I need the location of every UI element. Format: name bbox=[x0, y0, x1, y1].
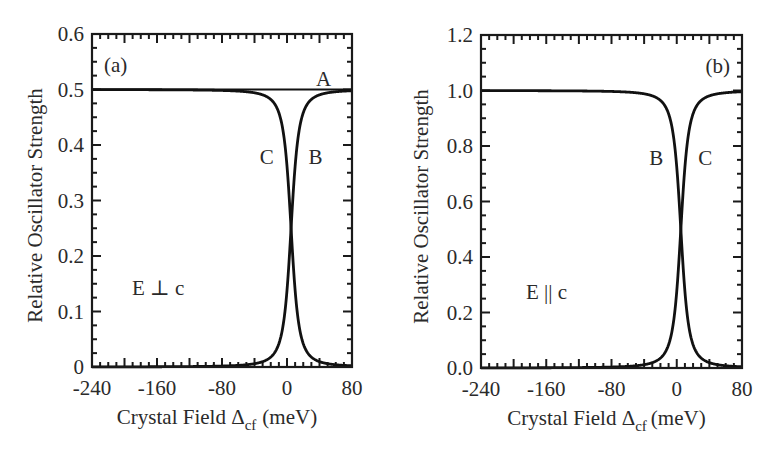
curve-label-B: B bbox=[649, 146, 663, 170]
panel-a-x-axis-title: Crystal Field Δcf(meV) bbox=[117, 405, 317, 433]
y-tick-label: 0.4 bbox=[58, 133, 85, 157]
curve-label-C: C bbox=[260, 145, 274, 169]
y-tick-label: 0.1 bbox=[58, 300, 84, 324]
x-tick-label: 80 bbox=[342, 376, 363, 400]
x-tick-label: 0 bbox=[672, 377, 683, 401]
panel-b-polarization-annotation: E || c bbox=[526, 280, 567, 304]
x-tick-label: -240 bbox=[462, 377, 501, 401]
y-tick-label: 0.2 bbox=[447, 301, 473, 325]
panel-b-curves bbox=[481, 91, 742, 368]
x-tick-label: -80 bbox=[208, 376, 236, 400]
panel-a-label: (a) bbox=[104, 53, 127, 77]
y-tick-label: 0.8 bbox=[447, 134, 473, 158]
y-tick-label: 1.2 bbox=[447, 23, 473, 47]
panel-a-x-tick-labels: -240-160-80080 bbox=[73, 376, 363, 400]
x-tick-label: 0 bbox=[282, 376, 293, 400]
curve-label-C: C bbox=[698, 146, 712, 170]
y-tick-label: 0.4 bbox=[447, 245, 474, 269]
curve-label-A: A bbox=[316, 67, 332, 91]
panel-a-perpendicular: 00.10.20.30.40.50.6 -240-160-80080 ACB (… bbox=[23, 22, 363, 433]
x-tick-label: 80 bbox=[732, 377, 753, 401]
curve-B bbox=[481, 91, 742, 367]
x-tick-label: -160 bbox=[138, 376, 177, 400]
curve-C bbox=[92, 91, 352, 367]
panel-b-x-tick-labels: -240-160-80080 bbox=[462, 377, 753, 401]
panel-a-frame bbox=[92, 34, 352, 367]
x-tick-label: -240 bbox=[73, 376, 112, 400]
panel-b-y-tick-labels: 0.00.20.40.60.81.01.2 bbox=[447, 23, 474, 380]
panel-b-x-axis-title: Crystal Field Δcf(meV) bbox=[507, 406, 705, 434]
panel-b-y-axis-title: Relative Oscillator Strength bbox=[409, 89, 433, 324]
y-tick-label: 0.2 bbox=[58, 244, 84, 268]
curve-B bbox=[92, 90, 352, 366]
y-tick-label: 0.6 bbox=[447, 190, 473, 214]
curve-C bbox=[481, 92, 742, 368]
panel-a-polarization-annotation: E ⊥ c bbox=[132, 276, 184, 300]
panel-b-label: (b) bbox=[706, 54, 731, 78]
x-tick-label: -80 bbox=[598, 377, 626, 401]
panel-a-y-tick-labels: 00.10.20.30.40.50.6 bbox=[58, 22, 85, 379]
panel-b-curve-labels: BC bbox=[649, 146, 712, 170]
panel-a-curves bbox=[92, 90, 352, 367]
panel-a-y-axis-title: Relative Oscillator Strength bbox=[23, 88, 47, 323]
panel-b-frame bbox=[481, 35, 742, 368]
y-tick-label: 0.5 bbox=[58, 78, 84, 102]
figure-canvas: 00.10.20.30.40.50.6 -240-160-80080 ACB (… bbox=[0, 0, 771, 453]
panel-b-parallel: 0.00.20.40.60.81.01.2 -240-160-80080 BC … bbox=[409, 23, 753, 434]
curve-label-B: B bbox=[308, 145, 322, 169]
panel-b-ticks bbox=[481, 35, 742, 368]
y-tick-label: 1.0 bbox=[447, 79, 473, 103]
panel-a-ticks bbox=[92, 34, 352, 367]
x-tick-label: -160 bbox=[527, 377, 566, 401]
y-tick-label: 0.3 bbox=[58, 189, 84, 213]
y-tick-label: 0.6 bbox=[58, 22, 84, 46]
